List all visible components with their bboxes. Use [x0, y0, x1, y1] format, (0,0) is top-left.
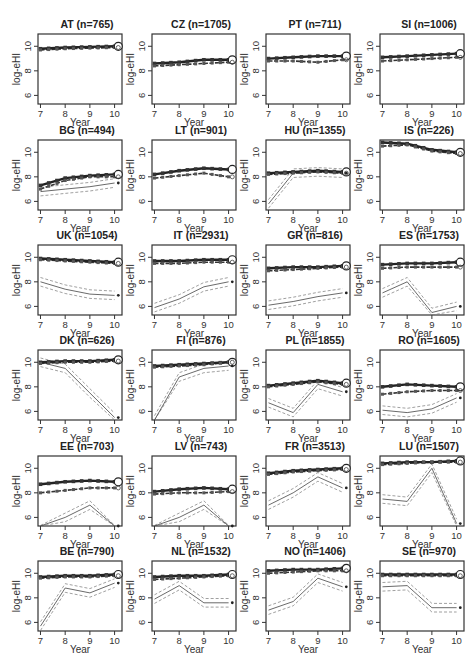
x-tick-label: 8: [177, 319, 182, 330]
marker-square: [80, 487, 83, 490]
marker-square: [389, 266, 392, 269]
marker-square: [447, 52, 451, 56]
marker-square: [333, 54, 337, 58]
marker-square: [316, 170, 319, 173]
marker-square: [308, 267, 311, 270]
marker-square: [308, 570, 311, 573]
y-axis-label: log-eHI: [353, 159, 364, 191]
marker-square: [316, 469, 319, 472]
x-tick-label: 8: [177, 108, 182, 119]
y-axis-label: log-eHI: [353, 475, 364, 507]
end-dot-marker: [117, 294, 120, 297]
marker-square: [39, 362, 42, 365]
panel-lt: LT (n=901)6810log-eHI78910Year: [124, 124, 238, 230]
marker-square: [283, 60, 286, 63]
end-dot-marker: [231, 525, 234, 528]
marker-square: [186, 168, 190, 172]
panel-fi: FI (n=876)6810log-eHI78910Year: [124, 334, 238, 440]
plot-frame: [152, 350, 236, 420]
panel-title: NO (n=1406): [275, 545, 355, 557]
marker-square: [325, 171, 328, 174]
marker-square: [422, 266, 425, 269]
panel-si: SI (n=1006)6810log-eHI78910Year: [352, 18, 466, 124]
marker-square: [39, 48, 42, 51]
x-tick-label: 10: [451, 214, 462, 225]
marker-square: [105, 575, 108, 578]
marker-square: [47, 482, 51, 486]
panel-bg: BG (n=494)6810log-eHI78910Year: [10, 124, 124, 230]
marker-square: [275, 172, 278, 175]
marker-square: [447, 261, 451, 265]
marker-square: [422, 53, 426, 57]
marker-square: [292, 383, 295, 386]
marker-square: [178, 63, 181, 66]
plot-area: 6810log-eHI78910Year: [124, 346, 242, 442]
marker-square: [389, 144, 392, 147]
end-circle-marker: [342, 52, 350, 60]
y-tick-label: 10: [250, 41, 261, 52]
marker-square: [72, 361, 75, 364]
marker-square: [439, 389, 442, 392]
y-tick-label: 8: [136, 68, 147, 73]
y-tick-label: 10: [364, 41, 375, 52]
marker-square: [55, 182, 58, 185]
marker-square: [447, 574, 450, 577]
plot-area: 6810log-eHI78910Year: [124, 452, 242, 548]
marker-square: [447, 461, 450, 464]
marker-square: [406, 266, 409, 269]
marker-square: [430, 266, 433, 269]
panel-hu: HU (n=1355)6810log-eHI78910Year: [238, 124, 352, 230]
y-tick-label: 8: [364, 68, 375, 73]
plot-frame: [38, 245, 122, 315]
plot-area: 6810log-eHI78910Year: [352, 346, 470, 442]
y-axis-label: log-eHI: [125, 580, 136, 612]
y-tick-label: 8: [136, 490, 147, 495]
end-circle-marker: [228, 56, 236, 64]
marker-square: [397, 391, 400, 394]
y-tick-label: 8: [22, 279, 33, 284]
marker-square: [55, 361, 58, 364]
panel-title: AT (n=765): [47, 18, 127, 30]
marker-square: [267, 269, 270, 272]
y-tick-label: 8: [250, 490, 261, 495]
x-tick-label: 7: [38, 214, 43, 225]
x-tick-label: 10: [223, 424, 234, 435]
panel-title: BE (n=790): [47, 545, 127, 557]
y-tick-label: 6: [250, 515, 261, 520]
marker-square: [325, 60, 328, 63]
marker-square: [414, 54, 418, 58]
panel-no: NO (n=1406)6810log-eHI78910Year: [238, 545, 352, 651]
marker-square: [389, 392, 392, 395]
panel-title: IT (n=2931): [161, 229, 241, 241]
marker-square: [267, 60, 270, 63]
marker-square: [300, 570, 303, 573]
marker-square: [202, 575, 205, 578]
marker-square: [64, 575, 67, 578]
end-circle-marker: [342, 262, 350, 270]
x-tick-label: 8: [405, 108, 410, 119]
marker-square: [405, 262, 409, 266]
x-tick-label: 10: [109, 214, 120, 225]
y-tick-label: 8: [364, 384, 375, 389]
x-tick-label: 7: [152, 108, 157, 119]
x-tick-label: 10: [337, 108, 348, 119]
marker-square: [219, 58, 223, 62]
marker-square: [325, 266, 328, 269]
marker-square: [97, 360, 100, 363]
marker-square: [153, 493, 156, 496]
marker-square: [430, 389, 433, 392]
x-tick-label: 7: [380, 319, 385, 330]
x-tick-label: 10: [337, 214, 348, 225]
panel-title: GR (n=816): [275, 229, 355, 241]
marker-square: [381, 56, 385, 60]
marker-square: [430, 150, 433, 153]
panel-lv: LV (n=743)6810log-eHI78910Year: [124, 440, 238, 546]
marker-square: [47, 181, 51, 185]
marker-square: [292, 470, 295, 473]
y-tick-label: 10: [250, 252, 261, 263]
x-tick-label: 8: [405, 530, 410, 541]
x-tick-label: 10: [109, 108, 120, 119]
x-tick-label: 10: [109, 424, 120, 435]
marker-square: [414, 390, 417, 393]
marker-square: [267, 173, 270, 176]
